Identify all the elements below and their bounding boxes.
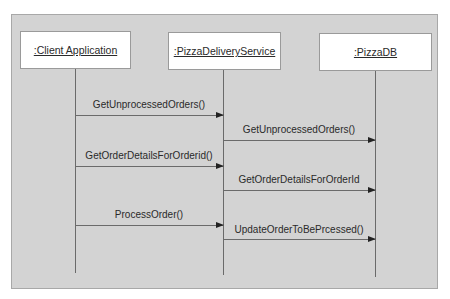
message-label: GetOrderDetailsForOrderid() [85,150,212,162]
message-arrow-4 [223,190,375,191]
participant-client-application: :Client Application [20,31,131,69]
message-label: UpdateOrderToBePrcessed() [235,224,364,236]
message-arrow-6 [223,239,375,240]
participant-label: :PizzaDeliveryService [174,45,276,57]
lifeline-pizza-db [375,71,376,277]
message-label: GetUnprocessedOrders() [243,124,355,136]
arrowhead-icon [216,112,224,118]
message-arrow-3 [75,166,223,167]
participant-pizza-delivery-service: :PizzaDeliveryService [168,32,281,70]
participant-pizza-db: :PizzaDB [319,33,432,71]
lifeline-client-application [75,69,76,273]
message-arrow-1 [75,115,223,116]
participant-label: :PizzaDB [354,46,397,58]
lifeline-pizza-delivery-service [223,70,224,275]
message-label: GetOrderDetailsForOrderId [238,174,359,186]
arrowhead-icon [216,222,224,228]
message-label: ProcessOrder() [115,209,183,221]
message-label: GetUnprocessedOrders() [93,99,205,111]
arrowhead-icon [216,163,224,169]
participant-label: :Client Application [34,44,117,56]
arrowhead-icon [368,187,376,193]
arrowhead-icon [368,137,376,143]
message-arrow-2 [223,140,375,141]
message-arrow-5 [75,225,223,226]
arrowhead-icon [368,236,376,242]
